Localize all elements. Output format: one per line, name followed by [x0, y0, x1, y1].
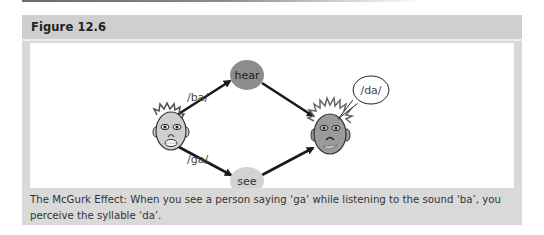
hear-node: hear [230, 60, 264, 90]
figure-panel: hear see /ba/ /ga/ [30, 43, 514, 188]
figure-header: Figure 12.6 [22, 15, 522, 41]
speech-bubble: /da/ [338, 76, 389, 119]
figure-caption: The McGurk Effect: When you see a person… [30, 192, 516, 224]
ga-label: /ga/ [187, 153, 208, 166]
figure-box: Figure 12.6 hear see [22, 15, 522, 225]
listener-face-icon [308, 98, 352, 154]
see-node: see [230, 167, 264, 188]
top-rule [22, 0, 422, 2]
arrow-see-to-listener [262, 148, 313, 175]
hear-label: hear [234, 69, 259, 82]
da-label: /da/ [360, 84, 381, 97]
ba-label: /ba/ [187, 91, 208, 104]
figure-title: Figure 12.6 [31, 20, 106, 34]
see-label: see [237, 175, 256, 188]
arrow-hear-to-listener [262, 83, 313, 116]
mcgurk-diagram: hear see /ba/ /ga/ [30, 43, 514, 188]
